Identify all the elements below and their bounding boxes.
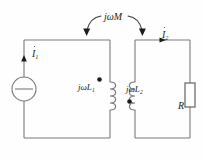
coupling-arc-left: [87, 16, 101, 30]
resistor-R-symbol: [185, 83, 195, 107]
label-current-i2: I2: [162, 30, 168, 41]
ac-voltage-source-symbol: [12, 77, 36, 101]
circuit-schematic-canvas: [0, 0, 204, 161]
i1-arrowhead: [21, 55, 27, 62]
coupling-arc-right: [128, 16, 142, 30]
label-mutual-inductance: jωM: [104, 12, 122, 22]
coupling-arrow-left-head: [83, 29, 90, 36]
label-current-i1: I1: [32, 49, 38, 60]
L2-polarity-dot: [127, 99, 132, 104]
resistor-body: [185, 83, 195, 107]
label-inductor-L1: jωL1: [78, 83, 95, 93]
right-loop-wires: [135, 40, 190, 138]
label-resistor-R: R: [178, 101, 184, 111]
L1-polarity-dot: [97, 77, 102, 82]
circuit-diagram: jωM jωL1 jωL2 I1 I2 R: [0, 0, 204, 161]
L1-coil-path: [110, 82, 116, 110]
label-inductor-L2: jωL2: [126, 85, 143, 95]
current-arrow-i1: [21, 55, 27, 62]
inductor-L1-coil: [97, 77, 115, 110]
coupling-arrow-right-head: [139, 29, 146, 36]
